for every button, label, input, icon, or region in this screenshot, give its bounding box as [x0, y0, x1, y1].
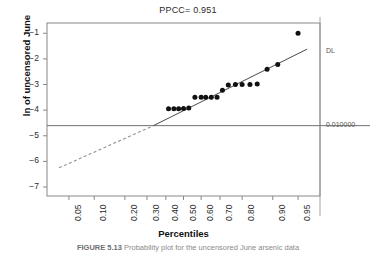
y-tick-label: −6 [17, 155, 39, 165]
extrapolated-fit-line [59, 126, 153, 168]
data-point [215, 95, 220, 100]
data-point [171, 106, 176, 111]
data-point [166, 106, 171, 111]
data-point [220, 88, 225, 93]
data-point [275, 62, 280, 67]
y-tick-label: −1 [17, 27, 39, 37]
data-point [209, 95, 214, 100]
y-tick-label: −4 [17, 104, 39, 114]
data-point [247, 82, 252, 87]
y-tick-label: −3 [17, 79, 39, 89]
data-point [296, 31, 301, 36]
x-tick-label: 0.50 [188, 204, 198, 221]
data-point [192, 95, 197, 100]
figure-caption: FIGURE 5.13 Probability plot for the unc… [0, 243, 376, 252]
figure-caption-text: Probability plot for the uncensored June… [124, 243, 299, 252]
detection-limit-label: DL [326, 47, 335, 54]
data-point [226, 83, 231, 88]
figure-container: PPCC= 0.951 ln of uncensored June Percen… [0, 0, 376, 255]
x-tick-label: 0.20 [129, 204, 139, 221]
x-tick-label: 0.30 [151, 204, 161, 221]
y-tick-label: −2 [17, 53, 39, 63]
x-tick-label: 0.10 [98, 204, 108, 221]
x-tick-label: 0.95 [302, 204, 312, 221]
data-point [181, 106, 186, 111]
data-point [199, 95, 204, 100]
y-tick-label: −5 [17, 130, 39, 140]
detection-limit-value: 0.010000 [326, 121, 355, 128]
x-tick-label: 0.60 [205, 204, 215, 221]
x-tick-label: 0.40 [170, 204, 180, 221]
x-tick-label: 0.80 [246, 204, 256, 221]
data-point [203, 95, 208, 100]
x-tick-label: 0.90 [277, 204, 287, 221]
data-point [265, 67, 270, 72]
x-tick-label: 0.05 [73, 204, 83, 221]
y-tick-label: −7 [17, 181, 39, 191]
data-point [240, 82, 245, 87]
figure-caption-label: FIGURE 5.13 [77, 243, 122, 252]
data-point [255, 82, 260, 87]
x-tick-label: 0.70 [224, 204, 234, 221]
data-point [233, 82, 238, 87]
data-point [176, 106, 181, 111]
fit-line [153, 49, 307, 126]
data-point [186, 106, 191, 111]
